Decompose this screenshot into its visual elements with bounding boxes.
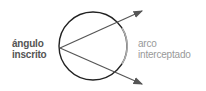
intercepted-arc-label: arco interceptado xyxy=(138,38,191,60)
label-line: arco xyxy=(138,38,191,49)
label-line: interceptado xyxy=(138,49,191,60)
label-line: ángulo xyxy=(12,38,47,49)
intercepted-arc xyxy=(122,28,127,64)
upper-ray-arrow xyxy=(60,11,142,48)
inscribed-angle-label: ángulo inscrito xyxy=(12,38,47,60)
label-line: inscrito xyxy=(12,49,47,60)
